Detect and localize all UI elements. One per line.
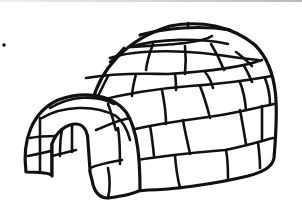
dot [2, 43, 6, 47]
igloo-illustration [0, 0, 302, 219]
igloo-tunnel [25, 95, 140, 198]
